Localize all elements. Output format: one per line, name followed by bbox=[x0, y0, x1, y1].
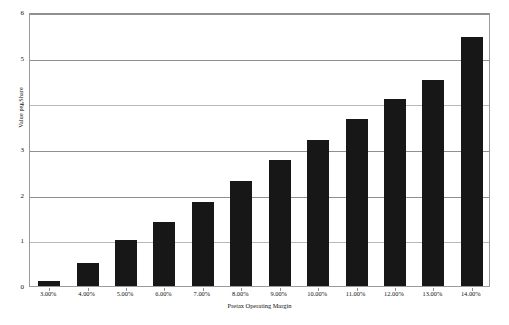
x-tick-label: 10.00% bbox=[295, 290, 339, 298]
x-tick-label: 14.00% bbox=[449, 290, 493, 298]
bar bbox=[230, 181, 252, 286]
y-tick-label: 0 bbox=[8, 284, 24, 291]
bar bbox=[115, 240, 137, 286]
bars-series bbox=[30, 14, 489, 286]
bar bbox=[192, 202, 214, 286]
x-tick-label: 5.00% bbox=[103, 290, 147, 298]
bar-chart: Value per Share 0123456 3.00%4.00%5.00%6… bbox=[0, 0, 509, 325]
bar bbox=[153, 222, 175, 286]
x-axis-title: Pretax Operating Margin bbox=[29, 301, 490, 310]
x-tick-label: 11.00% bbox=[334, 290, 378, 298]
bar bbox=[307, 140, 329, 286]
x-tick-label: 3.00% bbox=[26, 290, 70, 298]
bar bbox=[77, 263, 99, 286]
y-axis-tick-labels: 0123456 bbox=[8, 13, 24, 287]
bar bbox=[38, 281, 60, 286]
bar bbox=[269, 160, 291, 286]
bar bbox=[384, 99, 406, 286]
plot-area bbox=[29, 13, 490, 287]
y-tick-label: 3 bbox=[8, 147, 24, 154]
bar bbox=[461, 37, 483, 286]
x-tick-label: 13.00% bbox=[410, 290, 454, 298]
x-tick-label: 8.00% bbox=[218, 290, 262, 298]
x-tick-label: 12.00% bbox=[372, 290, 416, 298]
bar bbox=[346, 119, 368, 286]
y-tick-label: 5 bbox=[8, 55, 24, 62]
bar bbox=[422, 80, 444, 286]
x-tick-label: 4.00% bbox=[65, 290, 109, 298]
y-tick-label: 4 bbox=[8, 101, 24, 108]
x-tick-label: 6.00% bbox=[141, 290, 185, 298]
x-tick-label: 7.00% bbox=[180, 290, 224, 298]
x-tick-label: 9.00% bbox=[257, 290, 301, 298]
y-tick-label: 1 bbox=[8, 238, 24, 245]
y-tick-label: 6 bbox=[8, 10, 24, 17]
y-tick-label: 2 bbox=[8, 192, 24, 199]
